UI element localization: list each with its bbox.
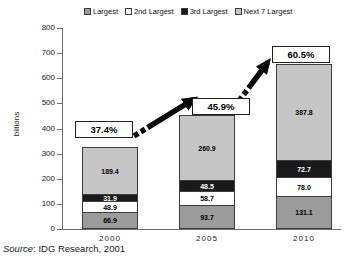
legend-item-label: Largest xyxy=(93,7,118,16)
legend-swatch-icon xyxy=(125,8,132,15)
legend-item-label: 3rd Largest xyxy=(190,7,228,16)
segment-value-label: 58.7 xyxy=(200,195,214,202)
x-axis-label-2010: 2010 xyxy=(274,234,334,243)
bar-segment-largest: 93.7 xyxy=(179,205,235,229)
bar-segment-largest: 66.9 xyxy=(82,212,138,229)
legend-swatch-icon xyxy=(84,8,91,15)
y-axis-tick xyxy=(57,229,62,230)
growth-callout-2000: 37.4% xyxy=(75,121,133,138)
bar-segment-2nd-largest: 58.7 xyxy=(179,191,235,206)
y-axis-tick xyxy=(57,78,62,79)
segment-value-label: 66.9 xyxy=(103,217,117,224)
y-axis-tick-label: 600 xyxy=(28,73,55,83)
bar-segment-2nd-largest: 78.0 xyxy=(276,177,332,197)
y-axis-tick-label: 300 xyxy=(28,149,55,159)
y-axis-tick-label: 200 xyxy=(28,174,55,184)
legend-swatch-icon xyxy=(181,8,188,15)
legend-item: 2nd Largest xyxy=(125,7,174,16)
bar-segment-3rd-largest: 72.7 xyxy=(276,160,332,178)
chart-legend: Largest2nd Largest3rd LargestNext 7 Larg… xyxy=(84,7,292,16)
y-axis-tick xyxy=(57,154,62,155)
y-axis-tick xyxy=(57,129,62,130)
bar-segment-next-7-largest: 189.4 xyxy=(82,147,138,195)
segment-value-label: 72.7 xyxy=(297,166,311,173)
y-axis-title: billions xyxy=(12,112,21,136)
y-axis-tick xyxy=(57,179,62,180)
bar-segment-largest: 131.1 xyxy=(276,196,332,229)
y-axis-tick xyxy=(57,103,62,104)
legend-swatch-icon xyxy=(235,8,242,15)
x-axis-line xyxy=(62,229,341,230)
y-axis-tick-label: 700 xyxy=(28,48,55,58)
legend-item-label: Next 7 Largest xyxy=(244,7,293,16)
y-axis-tick-label: 0 xyxy=(28,224,55,234)
segment-value-label: 189.4 xyxy=(101,168,119,175)
bar-segment-next-7-largest: 260.9 xyxy=(179,115,235,181)
segment-value-label: 260.9 xyxy=(198,145,216,152)
arrow-2005-to-2010 xyxy=(239,62,268,101)
legend-item: Next 7 Largest xyxy=(235,7,293,16)
y-axis-tick-label: 500 xyxy=(28,98,55,108)
growth-callout-2010: 60.5% xyxy=(272,46,330,63)
source-text: : IDG Research, 2001 xyxy=(33,243,125,254)
y-axis-tick xyxy=(57,53,62,54)
bar-2000: 189.431.948.966.9 xyxy=(82,147,138,229)
legend-item: 3rd Largest xyxy=(181,7,228,16)
bar-2010: 387.872.778.0131.1 xyxy=(276,64,332,229)
stacked-bar-chart: Largest2nd Largest3rd LargestNext 7 Larg… xyxy=(0,0,344,260)
x-axis-label-2005: 2005 xyxy=(177,234,237,243)
segment-value-label: 131.1 xyxy=(295,209,313,216)
y-axis-tick-label: 800 xyxy=(28,23,55,33)
segment-value-label: 48.5 xyxy=(200,183,214,190)
segment-value-label: 387.8 xyxy=(295,109,313,116)
y-axis-tick xyxy=(57,204,62,205)
segment-value-label: 93.7 xyxy=(200,214,214,221)
growth-callout-2005: 45.9% xyxy=(192,98,250,115)
legend-item: Largest xyxy=(84,7,118,16)
bar-2005: 260.948.558.793.7 xyxy=(179,115,235,229)
y-axis-tick xyxy=(57,28,62,29)
source-citation: Source: IDG Research, 2001 xyxy=(3,243,125,254)
y-axis-tick-label: 400 xyxy=(28,124,55,134)
y-axis-line xyxy=(62,28,63,230)
x-axis-label-2000: 2000 xyxy=(80,234,140,243)
source-label: Source xyxy=(3,243,33,254)
legend-item-label: 2nd Largest xyxy=(134,7,174,16)
segment-value-label: 48.9 xyxy=(103,204,117,211)
segment-value-label: 78.0 xyxy=(297,184,311,191)
y-axis-tick-label: 100 xyxy=(28,199,55,209)
bar-segment-next-7-largest: 387.8 xyxy=(276,64,332,161)
